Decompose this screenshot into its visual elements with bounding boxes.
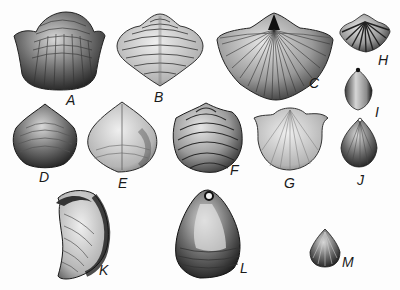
label-b: B bbox=[154, 90, 163, 104]
label-l: L bbox=[240, 261, 248, 275]
label-h: H bbox=[378, 53, 388, 67]
label-f: F bbox=[230, 163, 239, 177]
specimen-j-shell bbox=[341, 118, 377, 167]
label-m: M bbox=[342, 255, 354, 269]
label-d: D bbox=[39, 170, 49, 184]
label-c: C bbox=[309, 76, 319, 90]
specimen-m-shell bbox=[310, 229, 340, 267]
label-k: K bbox=[99, 263, 108, 277]
specimen-h-shell bbox=[340, 14, 390, 52]
specimen-i-shell bbox=[345, 68, 372, 110]
specimen-a-shell bbox=[14, 12, 105, 90]
label-a: A bbox=[66, 93, 75, 107]
fossil-plate: A B C D E F G H I J K L M bbox=[0, 0, 400, 290]
label-e: E bbox=[118, 176, 127, 190]
fossil-illustrations bbox=[0, 0, 400, 290]
label-j: J bbox=[357, 173, 364, 187]
label-g: G bbox=[284, 176, 295, 190]
specimen-b-shell bbox=[117, 14, 203, 86]
specimen-d-shell bbox=[13, 104, 77, 168]
specimen-g-shell bbox=[254, 108, 328, 170]
specimen-l-shell bbox=[176, 190, 240, 278]
label-i: I bbox=[375, 105, 379, 119]
specimen-e-shell bbox=[88, 102, 157, 172]
